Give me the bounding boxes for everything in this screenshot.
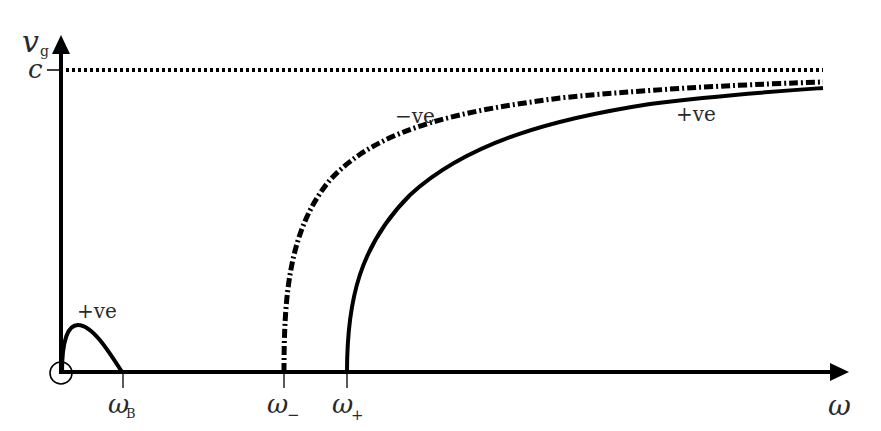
x-axis-arrow-icon: [830, 363, 849, 381]
omega-minus-label: ω: [267, 389, 288, 419]
minus-branch-label: −ve: [395, 104, 435, 128]
y-axis-arrow-icon: [52, 35, 70, 54]
c-tick-label: c: [28, 54, 43, 84]
omega-minus-subscript: −: [287, 406, 300, 424]
omega-plus-subscript: +: [351, 406, 364, 424]
whistler-mode-curve: [62, 325, 122, 372]
whistler-label: +ve: [77, 299, 117, 323]
plus-branch-curve: [347, 88, 823, 372]
plus-branch-label: +ve: [676, 102, 716, 126]
x-axis-label: ω: [828, 389, 851, 422]
group-velocity-diagram: v g c ω B ω − ω + ω +ve −ve +ve: [0, 0, 881, 431]
omega-b-subscript: B: [126, 406, 136, 421]
